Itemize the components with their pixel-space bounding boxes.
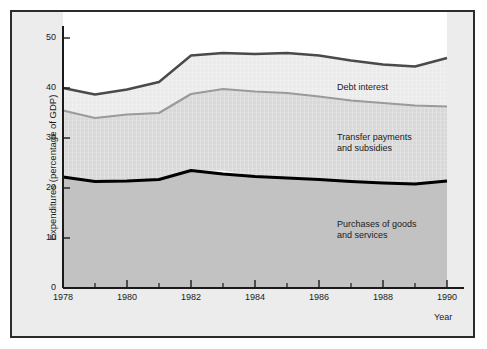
x-tick-label-1984: 1984 [235,292,275,302]
x-axis-title: Year [434,312,452,322]
y-tick-label-50: 50 [34,32,56,42]
x-tick-label-1986: 1986 [299,292,339,302]
x-tick-label-1988: 1988 [363,292,403,302]
chart-panel: Expenditures (percentage of GDP) [12,12,473,336]
x-tick-label-1990: 1990 [427,292,467,302]
chart-plot-area [12,12,473,336]
y-tick-label-10: 10 [34,232,56,242]
series-label-purchases: Purchases of goods and services [337,219,417,241]
y-tick-label-30: 30 [34,132,56,142]
x-tick-label-1978: 1978 [43,292,83,302]
series-label-transfer-payments: Transfer payments and subsidies [337,132,412,154]
chart-frame: Expenditures (percentage of GDP) [10,10,475,338]
y-tick-label-20: 20 [34,182,56,192]
chart-figure: Expenditures (percentage of GDP) [0,0,487,349]
y-tick-label-0: 0 [34,282,56,292]
x-tick-label-1982: 1982 [171,292,211,302]
x-tick-label-1980: 1980 [107,292,147,302]
y-tick-label-40: 40 [34,82,56,92]
series-label-debt-interest: Debt interest [337,82,388,93]
